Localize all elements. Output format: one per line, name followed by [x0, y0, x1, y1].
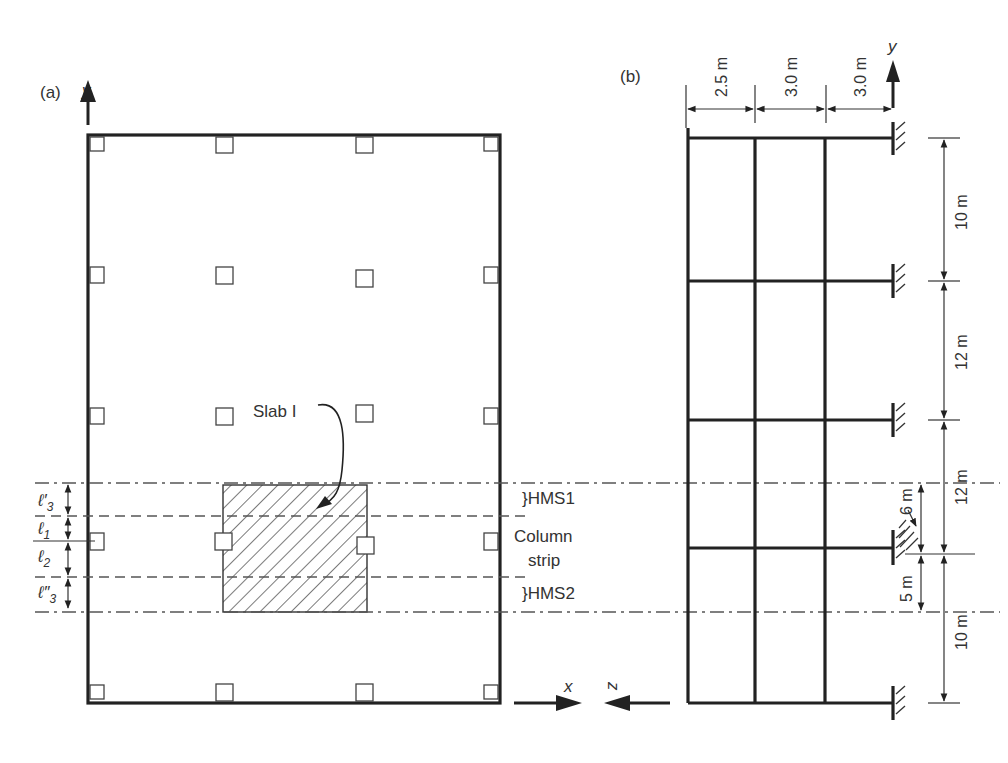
x-axis-arrow-icon [514, 695, 582, 711]
column [356, 405, 373, 422]
column [357, 537, 374, 554]
column [484, 408, 498, 424]
slab-i-hatched-region [223, 485, 367, 612]
z-axis-label: z [604, 681, 623, 691]
column [484, 137, 498, 151]
dim-l3-prime: ℓ′3 [37, 491, 54, 514]
section-frame [688, 122, 893, 720]
y-axis-arrow-icon-b [886, 60, 900, 108]
span-label-10m-top: 10 m [953, 194, 970, 230]
column [484, 267, 498, 283]
span-label-12m-a: 12 m [953, 334, 970, 370]
x-axis-label: x [563, 677, 573, 696]
hms2-label: }HMS2 [522, 584, 575, 603]
slab-i-label: Slab I [253, 402, 296, 421]
column [216, 137, 233, 153]
span-label-5m: 5 m [898, 575, 915, 602]
span-label-6m: 6 m [898, 488, 915, 515]
column-strip-label-line1: Column [514, 527, 573, 546]
panel-b-label: (b) [620, 67, 641, 86]
column [215, 533, 232, 550]
column [216, 684, 233, 701]
y-axis-label-b: y [887, 37, 898, 56]
span-label-3-0m-a: 3.0 m [783, 57, 800, 97]
span-label-2-5m: 2.5 m [713, 57, 730, 97]
column [356, 137, 373, 153]
dim-l2: ℓ2 [37, 547, 51, 570]
column-strip-label-line2: strip [528, 551, 560, 570]
dim-l3-double-prime: ℓ″3 [37, 583, 57, 606]
hms1-label: }HMS1 [522, 489, 575, 508]
column [216, 267, 233, 284]
span-label-10m-bottom: 10 m [953, 614, 970, 650]
column [90, 408, 104, 424]
panel-a: (a) y [33, 80, 1000, 711]
column [356, 270, 373, 287]
dim-l1: ℓ1 [37, 519, 50, 542]
z-axis-arrow-icon [604, 695, 670, 711]
column [90, 267, 104, 283]
panel-a-label: (a) [40, 83, 61, 102]
span-label-3-0m-b: 3.0 m [852, 57, 869, 97]
fixed-support-hatching [896, 122, 905, 714]
panel-b: (b) z y [604, 37, 975, 720]
column [216, 408, 233, 425]
column [356, 684, 373, 701]
column [90, 685, 104, 699]
column [484, 685, 498, 699]
column [484, 533, 498, 550]
diagram-canvas: (a) y [0, 0, 1008, 763]
column [90, 137, 104, 151]
span-label-12m-b: 12 m [953, 469, 970, 505]
